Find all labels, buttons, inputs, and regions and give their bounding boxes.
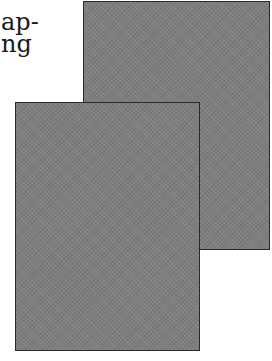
text-fragment-line-2: ng xyxy=(1,32,32,56)
front-page-rectangle xyxy=(15,102,200,351)
